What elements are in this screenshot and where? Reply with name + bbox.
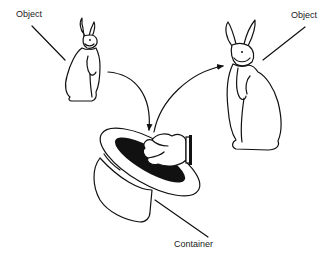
leader-line-container xyxy=(155,200,208,237)
arrow-object-to-container xyxy=(108,72,149,130)
rabbit-left-icon xyxy=(66,18,100,101)
top-hat-icon xyxy=(91,115,210,222)
label-container: Container xyxy=(174,239,213,249)
label-object-left: Object xyxy=(16,9,42,19)
leader-line-object-right xyxy=(263,27,305,60)
rabbit-right-icon xyxy=(226,20,281,150)
leader-line-object-left xyxy=(32,26,65,60)
diagram-svg xyxy=(0,0,335,260)
diagram-canvas: Object Object Container xyxy=(0,0,335,260)
label-object-right: Object xyxy=(291,10,317,20)
arrow-container-to-object xyxy=(154,66,223,132)
